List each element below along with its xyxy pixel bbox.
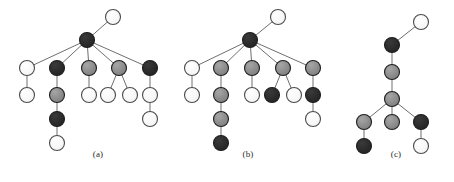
graph-node-child1-leaf-white xyxy=(185,88,200,103)
graph-node-child3-gray xyxy=(245,61,260,76)
graph-node-child5-mid-white xyxy=(143,88,158,103)
graph-node-chain-gray xyxy=(50,88,65,103)
graph-node-child5-gray xyxy=(306,61,321,76)
graph-node-child3-gray xyxy=(82,61,97,76)
graph-node-child2-dark xyxy=(50,61,65,76)
graph-node-child5-leaf-white xyxy=(306,112,321,127)
graph-node-child1-white xyxy=(185,61,200,76)
graph-node-child2-gray xyxy=(214,61,229,76)
graph-node-top-white xyxy=(271,10,286,25)
graph-node-child3-leaf-white xyxy=(245,88,260,103)
graph-node-child5-mid-dark xyxy=(306,88,321,103)
graph-node-branch-left-leaf-dark xyxy=(357,139,372,154)
graph-node-child4-leafB-white xyxy=(123,88,138,103)
graph-node-child4-leafB-white xyxy=(287,88,302,103)
graph-node-root-dark xyxy=(243,33,258,48)
graph-node-chain-gray-2 xyxy=(214,88,229,103)
nodes-layer xyxy=(20,10,429,154)
graph-node-child4-leafA-white xyxy=(101,88,116,103)
graph-node-child4-gray xyxy=(276,61,291,76)
graph-node-branch-right-dark xyxy=(414,115,429,130)
graph-node-top-white xyxy=(106,10,121,25)
figure-container: (a) (b) (c) xyxy=(0,0,454,182)
graph-node-branch-mid-gray xyxy=(385,115,400,130)
graph-node-root-dark xyxy=(80,33,95,48)
graph-node-chain-leaf-white xyxy=(50,136,65,151)
graph-node-child4-leafA-dark xyxy=(265,88,280,103)
graph-node-child5-leaf-white xyxy=(143,112,158,127)
graph-node-top-white xyxy=(414,15,429,30)
graph-node-chain-gray-3 xyxy=(214,112,229,127)
panel-caption-c: (c) xyxy=(376,149,416,159)
graph-node-spine-gray-1 xyxy=(385,65,400,80)
graph-node-root-dark xyxy=(385,38,400,53)
graph-node-chain-leaf-dark xyxy=(214,136,229,151)
graph-node-spine-gray-2 xyxy=(385,92,400,107)
graph-node-child1-white xyxy=(20,61,35,76)
graph-node-child4-gray xyxy=(112,61,127,76)
graph-node-child3-leaf-white xyxy=(82,88,97,103)
graph-node-child5-dark xyxy=(143,61,158,76)
graph-node-branch-left-gray xyxy=(357,115,372,130)
graph-node-child1-leaf-white xyxy=(20,88,35,103)
panel-caption-b: (b) xyxy=(228,149,268,159)
graph-node-chain-dark xyxy=(50,112,65,127)
panel-caption-a: (a) xyxy=(78,149,118,159)
